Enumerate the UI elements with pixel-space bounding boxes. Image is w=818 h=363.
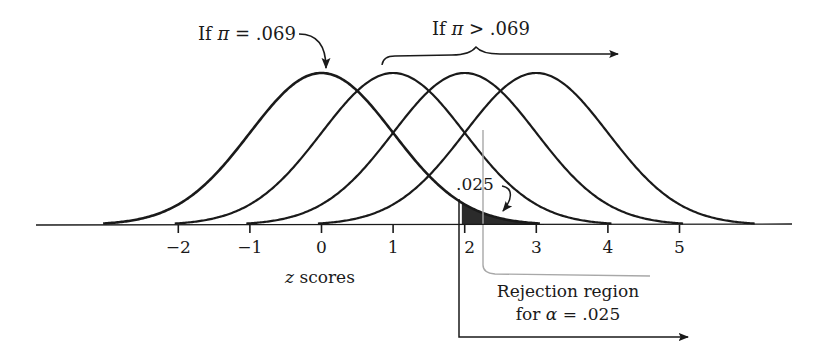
axis-tick-label: 1 — [388, 237, 399, 257]
axis-ticks — [178, 225, 679, 233]
normal-curve-mean-2 — [246, 73, 683, 224]
axis-tick-labels: −2−1012345 — [166, 237, 685, 257]
alt-brace-arrow — [382, 47, 618, 65]
axis-tick-label: 4 — [602, 237, 613, 257]
axis-tick-label: 0 — [316, 237, 327, 257]
axis-title: z scores — [284, 267, 355, 287]
axis-tick-label: −2 — [166, 237, 191, 257]
axis-tick-label: 2 — [464, 237, 475, 257]
null-hypothesis-label: If π = .069 — [198, 23, 296, 44]
normal-curve-mean-0 — [103, 73, 540, 224]
axis-tick-label: 3 — [531, 237, 542, 257]
alt-hypothesis-label: If π > .069 — [432, 18, 530, 39]
hypothesis-test-diagram: If π = .069 If π > .069 .025 −2−1012345 … — [0, 0, 818, 363]
null-label-arrow — [299, 34, 326, 68]
z-axis-line — [36, 224, 792, 225]
normal-curve-mean-3 — [318, 73, 755, 224]
axis-tick-label: −1 — [237, 237, 262, 257]
rejection-region-label-line1: Rejection region — [497, 281, 639, 301]
normal-curves — [103, 73, 755, 224]
axis-tick-label: 5 — [674, 237, 685, 257]
tail-area-arrow — [502, 186, 510, 211]
rejection-region-label-line2: for α = .025 — [516, 304, 620, 324]
tail-area-label: .025 — [456, 174, 494, 194]
normal-curve-mean-1 — [175, 73, 612, 224]
